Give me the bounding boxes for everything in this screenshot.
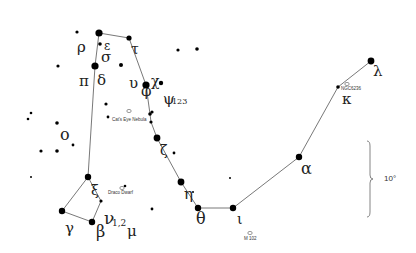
nebula-icon[interactable] [248,231,252,234]
star-label: ι [237,211,243,227]
field-star [107,116,110,119]
star-label: λ [373,62,383,80]
scale-brace-icon [367,141,373,217]
star-delta[interactable] [91,62,98,69]
field-star [30,176,32,178]
star-omega1[interactable] [148,112,152,116]
star-label: θ [196,209,206,228]
deep-sky-label: M 102 [244,236,257,241]
star-label: γ [65,219,74,237]
field-star [151,208,154,211]
star-chart: ρεστπδυφχψοζηθιακλξνγβμ1231,2 Cat's Eye … [0,0,416,253]
subscript-label: 1,2 [112,218,126,228]
star-nu[interactable] [99,199,102,202]
star-label: φ [141,82,152,100]
field-star [56,64,59,67]
star-iota[interactable] [230,205,236,211]
star-label: β [96,222,105,241]
star-beta[interactable] [89,219,95,225]
field-star [176,48,179,51]
star-label: η [184,185,193,203]
star-epsilon[interactable] [98,42,102,46]
star-labels: ρεστπδυφχψοζηθιακλξνγβμ1231,2 [60,38,383,241]
star-label: μ [127,222,137,240]
star-label: δ [97,71,106,89]
star-label: ο [60,125,70,144]
field-star [104,102,107,105]
field-star [75,30,78,33]
star-label: ζ [160,142,168,158]
scale-label: 10° [384,174,396,183]
star-omega[interactable] [149,120,152,123]
scale-bar: 10° [367,141,396,217]
star-tau[interactable] [126,35,131,40]
star-label: κ [342,90,352,108]
star-top[interactable] [95,29,102,36]
star-label: σ [101,48,111,66]
constellation-map: ρεστπδυφχψοζηθιακλξνγβμ1231,2 Cat's Eye … [0,0,416,253]
field-star [30,112,33,115]
deep-sky-objects: Cat's Eye NebulaDraco DwarfNGC6236M 102 [108,82,362,241]
deep-sky-label: Draco Dwarf [108,190,134,195]
field-star [55,121,59,125]
star-label: π [79,72,89,90]
star-label: τ [131,41,139,57]
subscript-label: 123 [172,97,187,106]
field-star [173,152,176,155]
star-label: ρ [77,38,86,56]
field-star [195,47,199,51]
field-star [55,149,59,153]
star-label: χ [151,73,160,89]
field-star [72,144,75,147]
field-star [119,63,123,67]
star-label: υ [129,74,138,92]
star-gamma[interactable] [59,208,65,214]
deep-sky-label: Cat's Eye Nebula [112,117,147,122]
field-star [27,118,30,121]
field-star [229,177,231,179]
star-label: ξ [91,182,99,198]
star-xi[interactable] [85,174,91,180]
star-zeta[interactable] [154,135,161,142]
star-kappa[interactable] [336,85,340,89]
nebula-icon[interactable] [127,109,131,112]
field-star [39,149,42,152]
star-label: α [301,159,312,178]
deep-sky-label: NGC6236 [341,86,362,91]
